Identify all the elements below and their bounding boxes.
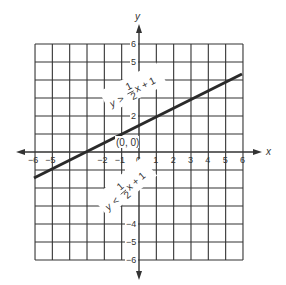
svg-text:−4: −4 — [126, 219, 136, 229]
svg-text:3: 3 — [188, 155, 193, 165]
svg-text:2: 2 — [171, 155, 176, 165]
y-axis-up-arrow-icon — [136, 24, 142, 33]
x-axis-label: x — [265, 146, 272, 157]
svg-text:−5: −5 — [126, 237, 136, 247]
x-axis-right-arrow-icon — [253, 149, 262, 155]
svg-text:5: 5 — [131, 57, 136, 67]
svg-text:−6: −6 — [126, 255, 136, 265]
svg-text:6: 6 — [240, 155, 245, 165]
y-axis-label: y — [134, 11, 141, 22]
svg-text:−5: −5 — [45, 155, 55, 165]
y-axis-down-arrow-icon — [136, 271, 142, 280]
svg-text:2: 2 — [131, 111, 136, 121]
x-axis-left-arrow-icon — [16, 149, 25, 155]
svg-text:4: 4 — [205, 155, 210, 165]
svg-text:−2: −2 — [97, 155, 107, 165]
origin-label: (0, 0) — [116, 137, 139, 148]
svg-text:−1: −1 — [115, 155, 125, 165]
svg-text:5: 5 — [223, 155, 228, 165]
svg-text:6: 6 — [131, 39, 136, 49]
svg-text:1: 1 — [153, 155, 158, 165]
svg-text:−6: −6 — [28, 155, 38, 165]
inequality-above: y > 1 2 x + 1 — [99, 63, 167, 114]
coordinate-plane: x y −6−5−2−10123456652−1−2−4−5−6 (0, 0) … — [0, 0, 286, 285]
